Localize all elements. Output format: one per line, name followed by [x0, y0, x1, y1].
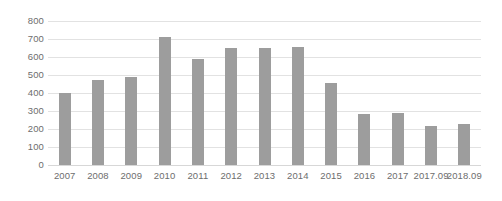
bar-2017.09[interactable]: [425, 126, 437, 165]
y-tick-label-700: 700: [0, 34, 44, 44]
bar-chart: 0100200300400500600700800 20072008200920…: [0, 0, 502, 201]
bar-2013[interactable]: [259, 48, 271, 165]
axis-baseline: [48, 165, 481, 166]
bar-2009[interactable]: [125, 77, 137, 165]
y-tick-label-300: 300: [0, 106, 44, 116]
y-tick-label-400: 400: [0, 88, 44, 98]
bar-2016[interactable]: [358, 114, 370, 165]
y-tick-label-500: 500: [0, 70, 44, 80]
bar-2014[interactable]: [292, 47, 304, 165]
bar-2015[interactable]: [325, 83, 337, 165]
y-tick-label-200: 200: [0, 124, 44, 134]
x-tick-label-2018.09: 2018.09: [440, 170, 488, 182]
bar-2012[interactable]: [225, 48, 237, 165]
y-axis-tick-labels: 0100200300400500600700800: [0, 0, 44, 201]
x-axis-tick-labels: 2007200820092010201120122013201420152016…: [48, 170, 488, 190]
y-tick-label-800: 800: [0, 16, 44, 26]
y-tick-label-600: 600: [0, 52, 44, 62]
y-tick-label-100: 100: [0, 142, 44, 152]
bar-2017[interactable]: [392, 113, 404, 165]
y-tick-label-0: 0: [0, 160, 44, 170]
bar-2008[interactable]: [92, 80, 104, 165]
bar-2018.09[interactable]: [458, 124, 470, 165]
bar-2011[interactable]: [192, 59, 204, 165]
bar-series: [48, 21, 481, 165]
bar-2010[interactable]: [159, 37, 171, 165]
bar-2007[interactable]: [59, 93, 71, 165]
